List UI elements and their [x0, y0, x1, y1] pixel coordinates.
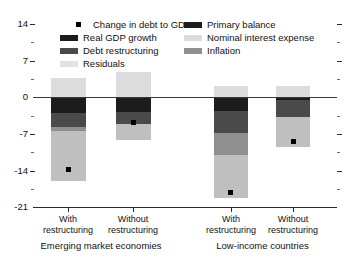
x-axis-label-group2-without: Without restructuring: [251, 214, 335, 235]
legend-marker-square-icon: [70, 22, 88, 28]
y-axis-minor-tick-neg17p5: [31, 189, 34, 190]
zero-baseline: [33, 97, 337, 98]
legend-item-residuals: Residuals: [60, 59, 125, 69]
bar-2-segment-primary-balance: [116, 97, 151, 112]
bar-2-change-in-debt-marker: [131, 120, 136, 125]
legend-item-real-gdp-growth: Real GDP growth: [60, 33, 157, 43]
bar-1-segment-nominal-interest-expense: [51, 78, 86, 97]
legend-swatch-icon: [60, 48, 78, 54]
y-axis-tick-neg14: [30, 171, 35, 172]
bar-3-segment-debt-restructuring: [214, 111, 248, 133]
y-tick-label-neg21: -21: [2, 202, 28, 212]
x-axis-group-label-emerging-market-economies: Emerging market economies: [26, 240, 176, 251]
legend-item-inflation: Inflation: [184, 46, 240, 56]
legend-item-primary-balance: Primary balance: [184, 20, 276, 30]
y-axis-right-tick-neg7: [337, 134, 342, 135]
y-tick-label-neg14: -14: [2, 166, 28, 176]
y-axis-minor-tick-3p5: [31, 79, 34, 80]
y-axis-tick-14: [30, 24, 35, 25]
y-axis-right-minor-neg10p5: [337, 152, 340, 153]
y-axis-minor-tick-neg10p5: [31, 152, 34, 153]
legend-swatch-icon: [60, 35, 78, 41]
x-axis-tick-3: [231, 208, 232, 212]
bar-2-segment-nominal-interest-expense: [116, 72, 151, 97]
legend-label: Inflation: [207, 46, 240, 56]
x-axis-tick-4: [293, 208, 294, 212]
x-axis-label-line1: Without: [91, 214, 175, 225]
bar-3-segment-inflation: [214, 133, 248, 155]
legend-label: Primary balance: [207, 20, 276, 30]
legend-item-nominal-interest-expense: Nominal interest expense: [184, 33, 314, 43]
bar-1-segment-primary-balance: [51, 97, 86, 113]
legend-swatch-icon: [184, 48, 202, 54]
bar-1-change-in-debt-marker: [66, 167, 71, 172]
y-tick-label-14: 14: [2, 19, 28, 29]
x-axis-label-line2: restructuring: [91, 225, 175, 236]
legend-label: Change in debt to GDP: [93, 20, 191, 30]
y-axis-right-tick-neg14: [337, 171, 342, 172]
bar-1-segment-residuals: [51, 131, 86, 181]
y-tick-label-7: 7: [2, 56, 28, 66]
legend-swatch-icon: [184, 22, 202, 28]
x-axis-label-line2: restructuring: [251, 225, 335, 236]
y-axis-minor-tick-neg3p5: [31, 116, 34, 117]
bar-4-segment-debt-restructuring: [276, 100, 310, 117]
y-axis-right-minor-3p5: [337, 79, 340, 80]
x-axis-tick-2: [133, 208, 134, 212]
x-axis-label-group1-without: Without restructuring: [91, 214, 175, 235]
bar-3-segment-nominal-interest-expense: [214, 86, 248, 97]
x-axis-tick-1: [68, 208, 69, 212]
legend-label: Debt restructuring: [83, 46, 159, 56]
x-axis-line: [33, 207, 337, 208]
legend-item-change-in-debt-to-gdp: Change in debt to GDP: [70, 20, 191, 30]
y-tick-label-neg7: -7: [2, 129, 28, 139]
y-axis-right-minor-neg17p5: [337, 189, 340, 190]
bar-3-change-in-debt-marker: [228, 190, 233, 195]
legend-label: Real GDP growth: [83, 33, 157, 43]
x-axis-group-label-low-income-countries: Low-income countries: [190, 240, 335, 251]
bar-3-segment-primary-balance: [214, 97, 248, 111]
legend-label: Nominal interest expense: [207, 33, 314, 43]
legend-label: Residuals: [83, 59, 125, 69]
y-axis-tick-7: [30, 61, 35, 62]
bar-4-change-in-debt-marker: [291, 139, 296, 144]
y-axis-right-minor-neg3p5: [337, 116, 340, 117]
bar-1-segment-debt-restructuring: [51, 113, 86, 127]
bar-2-segment-residuals: [116, 124, 151, 140]
legend-item-debt-restructuring: Debt restructuring: [60, 46, 159, 56]
chart-container: 14 7 0 -7 -14 -21: [0, 0, 344, 266]
chart-legend: Change in debt to GDP Primary balance Re…: [60, 20, 342, 72]
y-tick-label-0: 0: [2, 92, 28, 102]
legend-swatch-icon: [184, 35, 202, 41]
bar-4-segment-nominal-interest-expense: [276, 86, 310, 97]
y-axis-minor-tick-10p5: [31, 42, 34, 43]
y-axis-tick-neg7: [30, 134, 35, 135]
legend-swatch-icon: [60, 61, 78, 67]
x-axis-label-line1: Without: [251, 214, 335, 225]
